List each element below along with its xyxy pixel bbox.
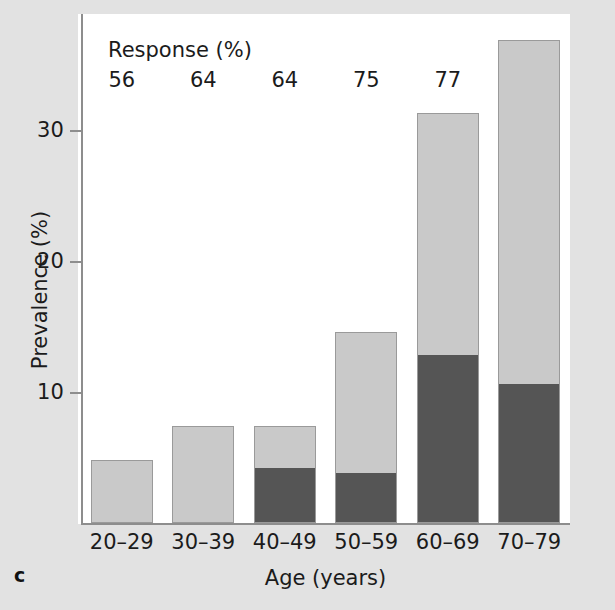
x-tick-labels: 20–29 30–39 40–49 50–59 60–69 70–79: [81, 530, 570, 560]
bar-segment-light: [418, 114, 478, 355]
x-tick-label-30-39: 30–39: [163, 530, 245, 560]
bar-segment-light: [336, 333, 396, 473]
bar-segment-light: [92, 461, 152, 522]
bar-stack[interactable]: [498, 40, 560, 523]
bar-segment-light: [255, 427, 315, 468]
bar-segment-light: [499, 41, 559, 384]
bar-segment-dark: [255, 468, 315, 522]
bar-segment-light: [173, 427, 233, 522]
bar-stack[interactable]: [417, 113, 479, 523]
bar-stack[interactable]: [254, 426, 316, 523]
y-tick-label-30: 30: [18, 118, 64, 142]
x-axis-title: Age (years): [81, 566, 570, 590]
panel-letter: c: [14, 564, 25, 586]
bar-stack[interactable]: [91, 460, 153, 523]
figure-panel-c: 30 20 10 Prevalence (%) Response (%) 56 …: [0, 0, 615, 610]
bar-segment-dark: [499, 384, 559, 522]
bar-stack[interactable]: [335, 332, 397, 523]
x-tick-label-50-59: 50–59: [326, 530, 408, 560]
x-tick-label-60-69: 60–69: [407, 530, 489, 560]
y-axis-title: Prevalence (%): [28, 180, 52, 400]
bars-layer: [81, 14, 570, 523]
bar-segment-dark: [336, 473, 396, 522]
x-axis-line: [81, 523, 570, 525]
bar-stack[interactable]: [172, 426, 234, 523]
x-tick-label-70-79: 70–79: [489, 530, 571, 560]
bar-segment-dark: [418, 355, 478, 522]
x-tick-label-40-49: 40–49: [244, 530, 326, 560]
x-tick-label-20-29: 20–29: [81, 530, 163, 560]
